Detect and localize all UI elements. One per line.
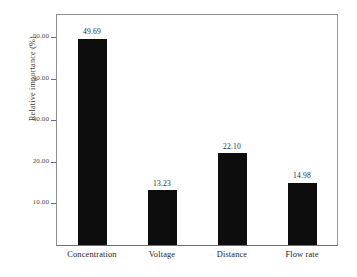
- x-axis-category-label: Distance: [197, 250, 267, 259]
- bar[interactable]: [78, 39, 107, 245]
- bar-slot: 13.23: [127, 15, 197, 245]
- bar[interactable]: [218, 153, 247, 245]
- x-axis-category-label: Voltage: [127, 250, 197, 259]
- bar-value-label: 22.10: [223, 142, 241, 151]
- y-axis-tick-label: 30.00: [33, 115, 49, 123]
- bar-value-label: 14.98: [293, 171, 311, 180]
- bar-value-label: 49.69: [83, 27, 101, 36]
- y-axis-tick-label: 10.00: [33, 198, 49, 206]
- bar[interactable]: [288, 183, 317, 245]
- y-axis-tick-mark: [51, 79, 56, 80]
- x-axis-category-label: Concentration: [57, 250, 127, 259]
- y-axis-tick-label: 50.00: [33, 32, 49, 40]
- bar-column: 14.98: [288, 15, 317, 245]
- y-axis-tick-label: 20.00: [33, 157, 49, 165]
- bar-slot: 49.69: [57, 15, 127, 245]
- bar-column: 22.10: [218, 15, 247, 245]
- y-axis-tick-mark: [51, 120, 56, 121]
- bar-value-label: 13.23: [153, 179, 171, 188]
- bar-column: 49.69: [78, 15, 107, 245]
- x-axis-category-label: Flow rate: [267, 250, 337, 259]
- x-axis-labels: ConcentrationVoltageDistanceFlow rate: [57, 250, 337, 270]
- bar[interactable]: [148, 190, 177, 245]
- bars-container: 49.6913.2322.1014.98: [57, 15, 337, 245]
- bar-chart: Relative importance (%) 10.0020.0030.004…: [0, 0, 357, 277]
- bar-slot: 22.10: [197, 15, 267, 245]
- y-axis-tick-label: 40.00: [33, 74, 49, 82]
- bar-column: 13.23: [148, 15, 177, 245]
- bar-slot: 14.98: [267, 15, 337, 245]
- y-axis-tick-mark: [51, 37, 56, 38]
- y-axis-tick-mark: [51, 203, 56, 204]
- y-axis-tick-mark: [51, 162, 56, 163]
